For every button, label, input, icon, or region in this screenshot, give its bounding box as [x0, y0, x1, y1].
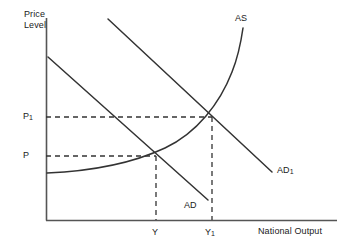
y-axis-title: PriceLevel — [24, 9, 46, 30]
ad-as-diagram-svg — [0, 0, 352, 245]
x-tick-label-y: Y — [152, 227, 158, 238]
ad-curve-label: AD — [184, 200, 197, 211]
ad1-curve — [108, 19, 272, 172]
ad1-curve-label-subscript: 1 — [290, 168, 294, 175]
y-tick-label-p1: P1 — [23, 111, 33, 123]
x-tick-label-y1-subscript: 1 — [211, 230, 215, 237]
as-curve-label: AS — [235, 13, 247, 24]
y-tick-label-p: P — [23, 150, 29, 161]
ad1-curve-label: AD1 — [277, 165, 294, 177]
curves-group — [47, 19, 272, 200]
x-tick-label-y1: Y1 — [205, 227, 215, 239]
diagram-canvas: PriceLevel National Output AS AD AD1 P1 … — [0, 0, 352, 245]
ad-curve — [48, 57, 208, 200]
y-tick-label-p1-subscript: 1 — [29, 114, 33, 121]
y-axis-title-line1: Price — [24, 9, 45, 19]
ad1-curve-label-text: AD — [277, 165, 290, 175]
as-curve — [47, 28, 243, 173]
axes-group — [46, 18, 337, 221]
y-axis-title-line2: Level — [24, 20, 46, 30]
x-axis-title: National Output — [258, 226, 322, 237]
